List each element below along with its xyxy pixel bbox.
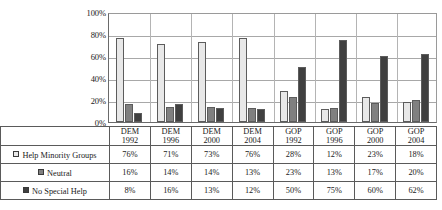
bar-group (191, 14, 232, 122)
bar (166, 107, 174, 122)
bar (412, 100, 420, 122)
table-column-header: GOP1992 (273, 127, 314, 146)
legend-entry: Neutral (1, 164, 110, 182)
bar (116, 38, 124, 122)
y-axis: 100%80%60%40%20%0% (58, 0, 106, 128)
column-header-year: 2004 (396, 136, 436, 145)
table-cell-value: 75% (314, 182, 355, 200)
bar-group (232, 14, 273, 122)
table-cell-value: 23% (273, 164, 314, 182)
column-header-year: 2004 (233, 136, 273, 145)
table-cell-value: 60% (355, 182, 396, 200)
bar (239, 38, 247, 122)
legend-color-swatch (38, 169, 44, 175)
chart-page: 100%80%60%40%20%0% DEM1992DEM1996DEM2000… (0, 0, 442, 210)
data-table-legend: DEM1992DEM1996DEM2000DEM2004GOP1992GOP19… (0, 126, 442, 210)
bar (362, 97, 370, 122)
bar (175, 104, 183, 122)
bar (134, 113, 142, 122)
y-axis-tick-label: 60% (62, 53, 106, 62)
y-axis-tick-label: 20% (62, 97, 106, 106)
column-header-party: GOP (314, 127, 354, 136)
table-cell-value: 71% (150, 146, 191, 164)
table-column-header: DEM2000 (191, 127, 232, 146)
bar-group (274, 14, 315, 122)
table-row: No Special Help8%16%13%12%50%75%60%62% (1, 182, 437, 200)
table-cell-value: 50% (273, 182, 314, 200)
bar (298, 67, 306, 122)
column-header-year: 1992 (110, 136, 150, 145)
table-cell-value: 18% (396, 146, 437, 164)
table-cell-value: 16% (150, 182, 191, 200)
y-axis-tick-label: 80% (62, 31, 106, 40)
bar (248, 108, 256, 122)
bar (289, 97, 297, 122)
bar (157, 44, 165, 122)
column-header-year: 2000 (355, 136, 395, 145)
bar (321, 109, 329, 122)
column-header-year: 1996 (314, 136, 354, 145)
bar (403, 102, 411, 122)
table-cell-value: 13% (314, 164, 355, 182)
column-header-party: DEM (151, 127, 191, 136)
bar-group (356, 14, 397, 122)
data-table: DEM1992DEM1996DEM2000DEM2004GOP1992GOP19… (0, 126, 437, 200)
table-cell-value: 13% (191, 182, 232, 200)
plot-area (108, 13, 437, 123)
y-axis-tick-label: 100% (62, 9, 106, 18)
table-column-header: DEM2004 (232, 127, 273, 146)
table-cell-value: 17% (355, 164, 396, 182)
bar-chart: 100%80%60%40%20%0% (0, 0, 442, 128)
bar-group (109, 14, 150, 122)
bar-group (150, 14, 191, 122)
table-cell-value: 12% (232, 182, 273, 200)
table-cell-value: 76% (110, 146, 151, 164)
column-header-party: GOP (396, 127, 436, 136)
bar (330, 108, 338, 122)
bar (280, 91, 288, 122)
table-corner-cell (1, 127, 110, 146)
table-column-header: GOP2004 (396, 127, 437, 146)
legend-color-swatch (13, 151, 19, 157)
column-header-party: GOP (355, 127, 395, 136)
bar (216, 108, 224, 122)
table-cell-value: 28% (273, 146, 314, 164)
column-header-party: DEM (233, 127, 273, 136)
column-header-year: 1996 (151, 136, 191, 145)
table-cell-value: 8% (110, 182, 151, 200)
table-column-header: GOP1996 (314, 127, 355, 146)
table-cell-value: 73% (191, 146, 232, 164)
legend-label: No Special Help (32, 186, 87, 195)
column-header-party: DEM (192, 127, 232, 136)
table-header-row: DEM1992DEM1996DEM2000DEM2004GOP1992GOP19… (1, 127, 437, 146)
bar (257, 109, 265, 122)
table-cell-value: 20% (396, 164, 437, 182)
table-column-header: GOP2000 (355, 127, 396, 146)
legend-entry: No Special Help (1, 182, 110, 200)
bar-group (315, 14, 356, 122)
bar (421, 54, 429, 122)
legend-label: Help Minority Groups (22, 150, 96, 159)
y-axis-tick-label: 40% (62, 75, 106, 84)
bar (339, 40, 347, 123)
column-header-year: 1992 (274, 136, 314, 145)
table-cell-value: 76% (232, 146, 273, 164)
table-column-header: DEM1992 (110, 127, 151, 146)
table-cell-value: 23% (355, 146, 396, 164)
bar (198, 42, 206, 122)
table-cell-value: 14% (150, 164, 191, 182)
table-cell-value: 16% (110, 164, 151, 182)
legend-label: Neutral (47, 168, 72, 177)
table-cell-value: 14% (191, 164, 232, 182)
bar-group (397, 14, 438, 122)
column-header-party: GOP (274, 127, 314, 136)
table-cell-value: 62% (396, 182, 437, 200)
table-column-header: DEM1996 (150, 127, 191, 146)
column-header-year: 2000 (192, 136, 232, 145)
bar (380, 56, 388, 122)
table-row: Neutral16%14%14%13%23%13%17%20% (1, 164, 437, 182)
bar-series-container (109, 14, 436, 122)
table-cell-value: 12% (314, 146, 355, 164)
column-header-party: DEM (110, 127, 150, 136)
bar (207, 107, 215, 122)
